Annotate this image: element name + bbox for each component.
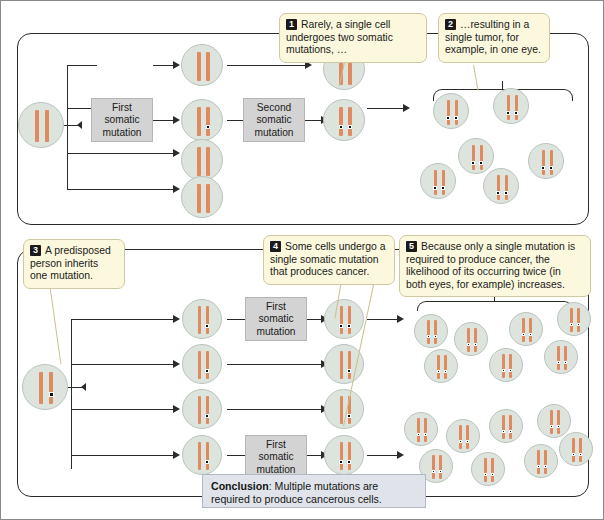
connector (227, 319, 245, 320)
chromosome (206, 107, 210, 136)
tumor-cell (483, 168, 519, 204)
connector (67, 153, 177, 154)
mutation-marker (205, 369, 209, 373)
chromosome (544, 450, 547, 474)
mutation-marker (506, 111, 510, 115)
connector (67, 108, 91, 109)
mutation-marker (537, 465, 540, 468)
founder-cell-bottom (22, 364, 68, 410)
chromosome (502, 354, 505, 378)
connector (67, 65, 97, 66)
tumor-cell (424, 349, 458, 383)
mutation-marker (529, 333, 532, 336)
mutation-marker (549, 166, 553, 170)
stage1-cell-row1 (182, 299, 222, 339)
chromosome (444, 355, 447, 379)
mutation-marker (347, 324, 351, 328)
callout-4-text: Some cells undergo a single somatic muta… (270, 241, 386, 277)
chromosome (198, 306, 201, 334)
chromosome (206, 306, 209, 334)
chromosome (550, 150, 553, 175)
diagram-canvas: 1Rarely, a single cell undergoes two som… (0, 0, 604, 520)
arrow-head (397, 451, 404, 459)
mutation-marker (577, 323, 580, 326)
label-first-somatic-mutation-row4: First somatic mutation (245, 435, 307, 479)
chromosome (459, 425, 462, 449)
chromosome (557, 346, 560, 370)
tumor-cell (524, 444, 558, 478)
tumor-cell (420, 163, 456, 199)
chromosome (564, 346, 567, 370)
stage1-cell-row4 (181, 176, 223, 218)
connector (71, 319, 72, 469)
chromosome (206, 184, 210, 213)
mutation-marker (446, 116, 450, 120)
callout-2-text: …resulting in a single tumor, for exampl… (445, 19, 541, 55)
callout-1: 1Rarely, a single cell undergoes two som… (279, 13, 427, 63)
mutation-marker (557, 425, 560, 428)
chromosome (340, 396, 343, 424)
chromosome (206, 396, 209, 424)
mutation-marker (205, 414, 209, 418)
tumor-cell (404, 412, 438, 446)
chromosome (424, 418, 427, 442)
mutation-marker (444, 370, 447, 373)
mutation-marker (49, 392, 54, 397)
connector (71, 364, 177, 365)
mutation-marker (347, 369, 351, 373)
chromosome (502, 415, 505, 439)
mutation-marker (502, 430, 505, 433)
chromosome (437, 355, 440, 379)
connector (71, 319, 177, 320)
mutation-marker (491, 473, 494, 476)
arrow-head (173, 116, 180, 124)
mutation-marker (502, 369, 505, 372)
chromosome (455, 100, 458, 125)
mutation-marker (432, 470, 435, 473)
label-second-somatic-mutation-top: Second somatic mutation (243, 98, 305, 142)
arrow-head (173, 149, 180, 157)
mutation-marker (205, 324, 209, 328)
chromosome (509, 354, 512, 378)
tumor-cell (414, 314, 448, 348)
tumor-cell (509, 312, 543, 346)
chromosome (206, 351, 209, 379)
callout-4: 4Some cells undergo a single somatic mut… (263, 235, 395, 285)
stage1-cell-row1 (181, 44, 223, 86)
callout-3-number: 3 (30, 245, 41, 256)
mutation-marker (474, 343, 477, 346)
chromosome (497, 175, 500, 200)
stage2-cell-row1 (324, 299, 364, 339)
chromosome (434, 320, 437, 344)
tumor-cell (557, 302, 591, 336)
chromosome (340, 306, 343, 334)
chromosome (515, 95, 518, 120)
chromosome (35, 110, 39, 142)
connector (227, 65, 309, 66)
callout-5-number: 5 (406, 241, 417, 252)
mutation-marker (509, 369, 512, 372)
arrow-head (173, 360, 180, 368)
mutation-marker (339, 324, 343, 328)
mutation-marker (579, 453, 582, 456)
chromosome (579, 438, 582, 462)
arrow-head (173, 61, 180, 69)
tumor-cell (489, 409, 523, 443)
mutation-marker (550, 425, 553, 428)
mutation-marker (570, 323, 573, 326)
callout-2: 2…resulting in a single tumor, for examp… (438, 13, 550, 63)
mutation-marker (339, 460, 343, 464)
chromosome (570, 308, 573, 332)
chromosome (466, 425, 469, 449)
mutation-marker (466, 440, 469, 443)
mutation-marker (417, 433, 420, 436)
mutation-marker (347, 460, 351, 464)
label-first-somatic-mutation-top: First somatic mutation (91, 98, 153, 142)
conclusion-label: Conclusion (211, 480, 269, 492)
mutation-marker (541, 166, 545, 170)
chromosome (472, 145, 475, 170)
callout-3-text: A predisposed person inherits one mutati… (30, 245, 111, 281)
chromosome (529, 318, 532, 342)
chromosome (340, 442, 343, 470)
connector (367, 319, 401, 320)
